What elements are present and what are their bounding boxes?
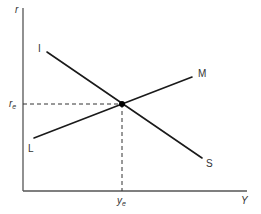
lm-curve-label-start: L	[28, 143, 34, 154]
lm-curve-line	[34, 77, 192, 138]
y-axis-label: r	[15, 4, 19, 15]
lm-curve-label-end: M	[198, 68, 206, 79]
equilibrium-guides	[23, 104, 122, 191]
equilibrium-point	[119, 101, 125, 107]
is-curve-label-start: I	[38, 43, 41, 54]
r-e-label-sub: e	[12, 103, 16, 110]
y-e-label: ye	[116, 195, 126, 207]
lm-curve: L M	[28, 68, 206, 154]
axes: r Y	[15, 4, 249, 206]
is-curve: I S	[38, 43, 213, 169]
y-e-label-sub: e	[122, 200, 126, 207]
is-curve-label-end: S	[206, 158, 213, 169]
r-e-label: re	[9, 98, 16, 110]
x-axis-label: Y	[241, 195, 249, 206]
is-lm-diagram: r Y I S L M re ye	[0, 0, 261, 214]
